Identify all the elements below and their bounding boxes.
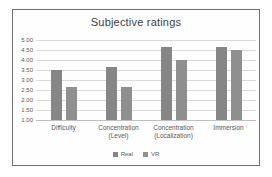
category-label-3: Concentration (Localization)	[146, 124, 201, 140]
y-tick-label: 3.50	[13, 67, 33, 73]
y-tick-label: 1.00	[13, 117, 33, 123]
category-label-2: Concentration (Level)	[91, 124, 146, 140]
bar-real-1	[51, 70, 62, 120]
bar-vr-1	[66, 87, 77, 120]
y-tick-label: 4.50	[13, 47, 33, 53]
y-tick-label: 2.00	[13, 97, 33, 103]
chart-title: Subjective ratings	[13, 16, 259, 28]
chart-figure: Subjective ratings DifficultyConcentrati…	[12, 9, 260, 166]
y-tick-label: 5.00	[13, 37, 33, 43]
bar-real-4	[216, 47, 227, 120]
legend-item-vr: VR	[143, 151, 159, 157]
legend-label-vr: VR	[151, 151, 159, 157]
plot-area	[36, 40, 256, 120]
bar-vr-4	[231, 50, 242, 120]
bar-vr-3	[176, 60, 187, 120]
legend-label-real: Real	[121, 151, 133, 157]
legend-marker-vr	[143, 152, 148, 157]
gridline-5.00	[36, 40, 256, 41]
bar-vr-2	[121, 87, 132, 120]
bar-real-3	[161, 47, 172, 120]
gridline-1.00	[36, 120, 256, 121]
y-tick-label: 3.00	[13, 77, 33, 83]
y-tick-label: 4.00	[13, 57, 33, 63]
legend-marker-real	[113, 152, 118, 157]
category-label-1: Difficulty	[36, 124, 91, 132]
category-label-4: Immersion	[201, 124, 256, 132]
legend-item-real: Real	[113, 151, 133, 157]
bar-real-2	[106, 67, 117, 120]
y-tick-label: 1.50	[13, 107, 33, 113]
y-tick-label: 2.50	[13, 87, 33, 93]
legend: RealVR	[13, 151, 259, 157]
